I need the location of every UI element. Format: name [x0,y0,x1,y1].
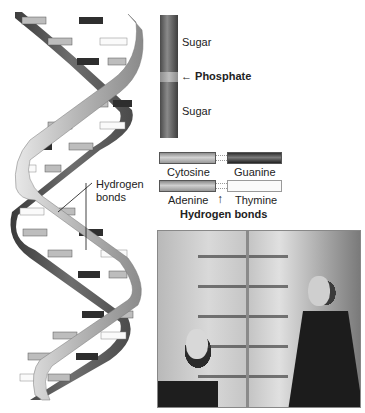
dna-double-helix-illustration [0,0,150,413]
thymine-base [227,180,282,192]
person-left-face [186,329,208,359]
helix-hydrogen-bonds-callout: Hydrogen bonds [96,178,144,204]
guanine-label: Guanine [234,166,276,178]
phosphate-segment [160,72,178,82]
thymine-label: Thymine [235,194,277,206]
dna-model-in-photo [198,241,288,401]
cytosine-label: Cytosine [167,166,210,178]
hydrogen-bond-cg [216,155,227,161]
phosphate-label: ← Phosphate [181,70,251,82]
sugar-bottom-label: Sugar [182,105,211,117]
adenine-label: Adenine [168,194,208,206]
sugar-top-label: Sugar [182,36,211,48]
person-right-face [308,276,330,306]
person-left-suit [158,381,218,408]
callout-line-1: Hydrogen [96,178,144,191]
cytosine-base [159,152,216,164]
hydrogen-bond-at [216,183,227,189]
up-arrow-icon: ↑ [217,192,223,206]
callout-line-2: bonds [96,191,144,204]
adenine-base [159,180,216,192]
watson-crick-photo [157,230,361,408]
guanine-base [227,152,282,164]
model-pole [246,231,249,407]
hydrogen-bonds-label: Hydrogen bonds [180,208,267,220]
person-right-suit [288,311,361,408]
left-arrow-icon: ← [181,70,192,82]
